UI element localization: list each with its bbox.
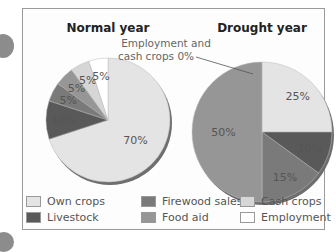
legend-swatch [240,212,255,223]
normal-year-pie: 70%10%5%5%5%5% [46,58,172,185]
slice-label: 5% [92,70,109,83]
legend-label: Food aid [162,211,209,224]
legend-swatch [26,196,41,207]
legend-label: Cash crops [261,195,321,208]
legend-label: Firewood sales [162,195,243,208]
legend-swatch [240,196,255,207]
slice-label: 10% [51,114,75,127]
slice-label: 15% [273,171,297,184]
legend-item-own-crops: Own crops [26,194,105,208]
legend-item-cash-crops: Cash crops [240,194,321,208]
slice-label: 25% [285,90,309,103]
drought-year-title: Drought year [217,21,307,35]
legend-swatch [141,212,156,223]
legend-label: Employment [261,211,331,224]
legend: Own cropsLivestockFirewood salesFood aid… [26,194,322,228]
legend-label: Livestock [47,211,99,224]
legend-swatch [26,212,41,223]
legend-item-firewood-sales: Firewood sales [141,194,243,208]
slice-label: 10% [298,142,322,155]
annotation-line-2: cash crops 0% [118,50,194,62]
legend-item-livestock: Livestock [26,210,99,224]
annotation-line-1: Employment and [121,37,211,49]
slice-label: 70% [123,134,147,147]
slice-label: 50% [211,126,235,139]
legend-item-employment: Employment [240,210,331,224]
drought-year-pie: 25%10%15%50% [192,62,334,205]
legend-item-food-aid: Food aid [141,210,209,224]
normal-year-title: Normal year [66,21,149,35]
legend-label: Own crops [47,195,105,208]
legend-swatch [141,196,156,207]
